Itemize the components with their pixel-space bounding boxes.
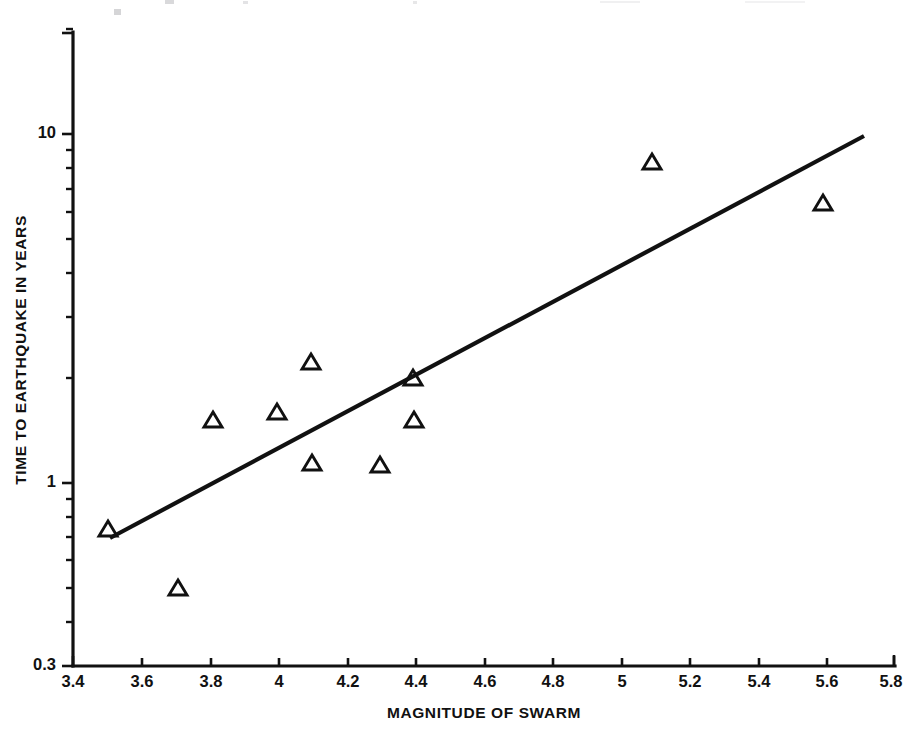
x-ticklabel-5: 4.4	[405, 672, 429, 690]
y-ticklabel-0: 10	[38, 123, 56, 141]
data-point-marker	[302, 354, 320, 369]
data-point-marker	[643, 154, 661, 169]
x-ticklabel-2: 3.8	[200, 672, 223, 690]
data-point-marker	[204, 412, 222, 427]
data-point-marker	[303, 455, 321, 470]
scan-artifacts	[114, 0, 805, 15]
x-ticklabel-1: 3.6	[131, 672, 154, 690]
y-ticklabel-2: 0.3	[33, 655, 56, 673]
trend-line	[110, 136, 864, 538]
x-axis-title: MAGNITUDE OF SWARM	[387, 704, 581, 721]
chart-figure: 10 1 0.3 3.4 3.6 3.8 4 4.2 4.	[0, 0, 910, 736]
x-ticklabel-9: 5.2	[679, 672, 702, 690]
data-point-marker	[99, 521, 117, 536]
scatter-plot: 10 1 0.3 3.4 3.6 3.8 4 4.2 4.	[0, 0, 910, 736]
y-ticklabel-1: 1	[47, 472, 56, 490]
x-axis-ticklabels: 3.4 3.6 3.8 4 4.2 4.4 4.6 4.8 5 5.2 5.4 …	[62, 672, 903, 690]
x-ticklabel-3: 4	[274, 672, 284, 690]
x-ticklabel-4: 4.2	[337, 672, 360, 690]
scatter-markers	[99, 154, 832, 595]
data-point-marker	[371, 457, 389, 472]
x-ticklabel-7: 4.8	[542, 672, 565, 690]
x-ticklabel-8: 5	[617, 672, 626, 690]
x-ticklabel-0: 3.4	[62, 672, 86, 690]
x-ticklabel-10: 5.4	[748, 672, 772, 690]
x-ticklabel-6: 4.6	[474, 672, 497, 690]
x-ticklabel-11: 5.6	[816, 672, 839, 690]
data-point-marker	[268, 404, 286, 419]
axes	[62, 32, 895, 666]
data-point-marker	[169, 580, 187, 595]
y-axis-ticklabels: 10 1 0.3	[33, 123, 56, 673]
data-point-marker	[405, 412, 423, 427]
x-ticklabel-12: 5.8	[880, 672, 903, 690]
y-axis-title: TIME TO EARTHQUAKE IN YEARS	[12, 215, 29, 485]
y-axis-ticks	[62, 29, 73, 666]
data-point-marker	[814, 195, 832, 210]
